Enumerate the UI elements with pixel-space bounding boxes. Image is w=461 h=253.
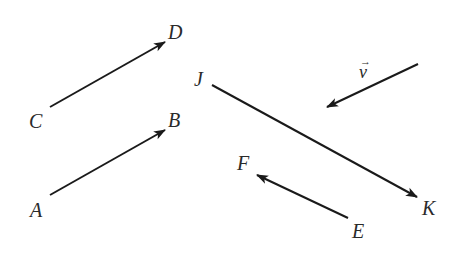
vector-diagram: C D A B J K F E v →: [0, 0, 461, 253]
vector-v-arrow: [327, 64, 418, 107]
vector-v-label: v →: [359, 63, 367, 81]
point-label-c: C: [29, 111, 42, 131]
point-label-f: F: [237, 153, 249, 173]
vector-arrow-accent-icon: →: [360, 56, 371, 67]
vector-ef-arrow: [257, 175, 348, 218]
vector-lines: [0, 0, 461, 253]
vector-ab-arrow: [50, 130, 165, 195]
point-label-j: J: [194, 69, 203, 89]
point-label-b: B: [168, 110, 180, 130]
point-label-d: D: [168, 22, 182, 42]
point-label-e: E: [352, 221, 364, 241]
vector-cd-arrow: [50, 42, 165, 107]
point-label-k: K: [422, 198, 435, 218]
point-label-a: A: [30, 200, 42, 220]
vector-jk-arrow: [212, 85, 417, 197]
